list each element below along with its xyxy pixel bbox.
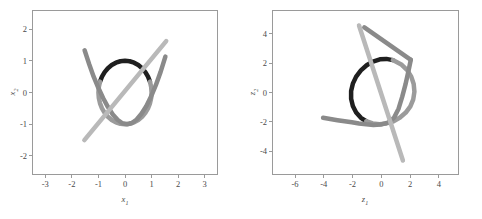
y-tick-label: -4 bbox=[252, 146, 267, 156]
y-tick-label: -2 bbox=[12, 151, 27, 161]
y-tick-mark bbox=[29, 124, 32, 125]
left-plot-panel: -3-2-10123-2-1012 x1 x2 bbox=[0, 0, 241, 219]
y-tick-mark bbox=[29, 60, 32, 61]
y-tick-mark bbox=[29, 155, 32, 156]
y-tick-label: -2 bbox=[252, 117, 267, 127]
right-y-axis-title: z2 bbox=[247, 89, 259, 95]
y-tick-mark bbox=[269, 151, 272, 152]
left-x-axis-title: x1 bbox=[122, 194, 129, 206]
right-plot-frame bbox=[272, 10, 459, 175]
y-tick-mark bbox=[269, 63, 272, 64]
x-tick-mark bbox=[438, 175, 439, 178]
y-tick-label: 2 bbox=[12, 24, 27, 34]
x-tick-label: 2 bbox=[176, 179, 180, 189]
x-tick-label: -2 bbox=[68, 179, 75, 189]
figure-two-panel-plot: -3-2-10123-2-1012 x1 x2 -6-4-2024-4-2024… bbox=[0, 0, 482, 219]
x-tick-mark bbox=[204, 175, 205, 178]
x-tick-label: 1 bbox=[149, 179, 153, 189]
x-tick-label: 4 bbox=[437, 179, 441, 189]
x-tick-mark bbox=[352, 175, 353, 178]
y-tick-mark bbox=[269, 92, 272, 93]
x-tick-mark bbox=[98, 175, 99, 178]
x-tick-label: 3 bbox=[203, 179, 207, 189]
y-tick-mark bbox=[29, 92, 32, 93]
y-tick-label: 2 bbox=[252, 58, 267, 68]
x-tick-mark bbox=[323, 175, 324, 178]
x-tick-mark bbox=[295, 175, 296, 178]
y-tick-label: 4 bbox=[252, 29, 267, 39]
x-tick-mark bbox=[45, 175, 46, 178]
x-tick-mark bbox=[151, 175, 152, 178]
x-tick-label: -4 bbox=[320, 179, 327, 189]
y-tick-mark bbox=[269, 121, 272, 122]
x-tick-mark bbox=[381, 175, 382, 178]
x-tick-mark bbox=[178, 175, 179, 178]
right-x-axis-title: z1 bbox=[362, 194, 368, 206]
left-plot-frame bbox=[32, 10, 218, 175]
x-tick-label: 2 bbox=[408, 179, 412, 189]
x-tick-label: -1 bbox=[95, 179, 102, 189]
y-tick-mark bbox=[269, 33, 272, 34]
x-tick-label: 0 bbox=[123, 179, 127, 189]
y-tick-label: -1 bbox=[12, 119, 27, 129]
right-plot-panel: -6-4-2024-4-2024 z1 z2 bbox=[241, 0, 482, 219]
x-tick-label: 0 bbox=[379, 179, 383, 189]
y-tick-label: 1 bbox=[12, 56, 27, 66]
x-tick-label: -2 bbox=[349, 179, 356, 189]
x-tick-mark bbox=[125, 175, 126, 178]
y-tick-mark bbox=[29, 29, 32, 30]
left-y-axis-title: x2 bbox=[7, 89, 19, 96]
x-tick-label: -3 bbox=[42, 179, 49, 189]
x-tick-mark bbox=[71, 175, 72, 178]
x-tick-label: -6 bbox=[291, 179, 298, 189]
x-tick-mark bbox=[410, 175, 411, 178]
